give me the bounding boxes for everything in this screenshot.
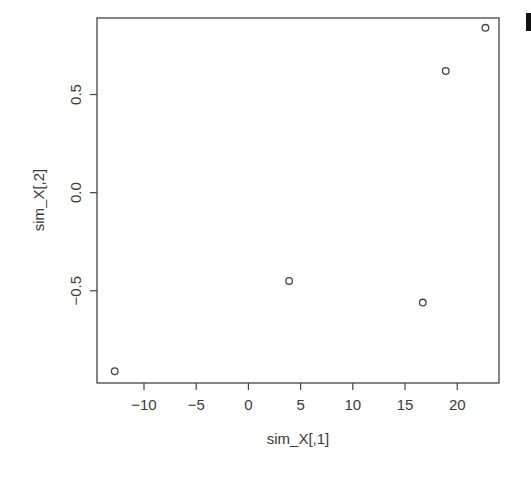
open-circle-marker — [442, 68, 449, 75]
open-circle-marker — [482, 25, 489, 32]
edge-fragment — [526, 13, 531, 31]
x-tick-label: 10 — [344, 396, 361, 413]
open-circle-marker — [286, 278, 293, 285]
x-axis: −10−505101520 — [131, 383, 465, 413]
y-tick-label: 0.5 — [67, 84, 84, 105]
y-axis-title: sim_X[,2] — [30, 169, 47, 232]
open-circle-marker — [111, 368, 118, 375]
plot-frame — [97, 18, 499, 383]
x-tick-label: −10 — [131, 396, 156, 413]
x-tick-label: 0 — [244, 396, 252, 413]
x-tick-label: 15 — [397, 396, 414, 413]
y-axis: −0.50.00.5 — [67, 84, 97, 305]
scatter-plot: −10−505101520 −0.50.00.5 sim_X[,1] sim_X… — [0, 0, 531, 485]
data-points — [111, 25, 488, 375]
x-tick-label: −5 — [188, 396, 205, 413]
x-axis-title: sim_X[,1] — [267, 430, 330, 447]
x-tick-label: 20 — [449, 396, 466, 413]
y-tick-label: −0.5 — [67, 276, 84, 306]
open-circle-marker — [419, 299, 426, 306]
x-tick-label: 5 — [296, 396, 304, 413]
y-tick-label: 0.0 — [67, 182, 84, 203]
